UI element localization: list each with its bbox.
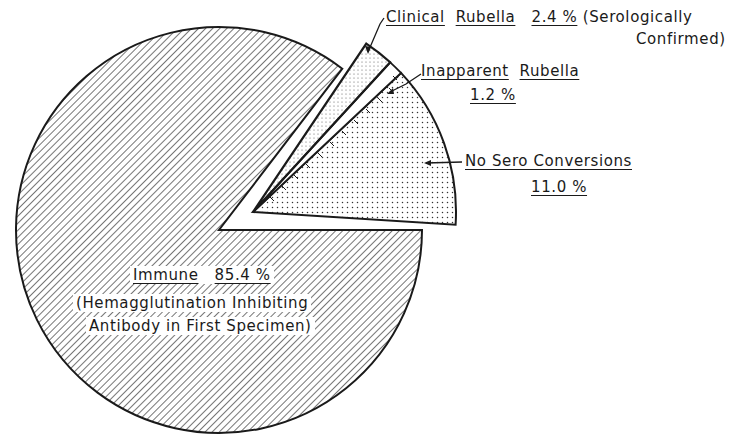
label-immune-note-2: Antibody in First Specimen) (86, 317, 315, 335)
label-clinical-rubella: Clinical Rubella 2.4 % (Serologically (386, 8, 692, 26)
label-no-sero-pct: 11.0 % (531, 178, 587, 196)
label-inapparent-rubella: Inapparent Rubella (421, 62, 579, 80)
label-immune: Immune 85.4 % (130, 266, 274, 284)
label-no-sero-conversions: No Sero Conversions (465, 152, 632, 170)
label-immune-note-1: (Hemagglutination Inhibiting (73, 294, 311, 312)
pie-chart (0, 0, 744, 448)
label-clinical-note: Confirmed) (636, 30, 726, 48)
label-inapparent-pct: 1.2 % (470, 86, 516, 104)
